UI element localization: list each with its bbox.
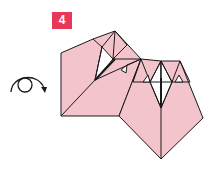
origami-diagram — [0, 0, 211, 176]
turn-over-icon — [11, 77, 47, 93]
